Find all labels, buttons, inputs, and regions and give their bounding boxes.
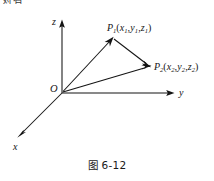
point-p2-label: P2(x2,y2,z2) bbox=[154, 61, 198, 73]
p1-coord-z-sub: 1 bbox=[145, 27, 148, 34]
x-axis bbox=[17, 93, 62, 138]
vector-o-to-p1 bbox=[63, 37, 114, 92]
figure-container: 对有 z bbox=[0, 0, 214, 181]
point-p1-label: P1(x1,y1,z1) bbox=[107, 22, 151, 34]
p2-coord-y-sub: 2 bbox=[182, 66, 185, 73]
p2-index: 2 bbox=[160, 66, 163, 73]
p2-coord-z-sub: 2 bbox=[192, 66, 195, 73]
p1-index: 1 bbox=[113, 27, 116, 34]
p2-close-paren: ) bbox=[195, 61, 198, 72]
y-axis-label: y bbox=[179, 88, 183, 98]
origin-label: O bbox=[50, 84, 58, 94]
p1-close-paren: ) bbox=[148, 22, 151, 33]
p1-coord-x-sub: 1 bbox=[124, 27, 127, 34]
z-axis bbox=[59, 20, 65, 94]
z-axis-label: z bbox=[52, 17, 56, 27]
p1-coord-y-sub: 1 bbox=[135, 27, 138, 34]
vector-p1-to-p2 bbox=[114, 39, 151, 67]
figure-caption: 图 6-12 bbox=[0, 157, 214, 172]
x-axis-label: x bbox=[13, 142, 17, 152]
p2-coord-x-sub: 2 bbox=[171, 66, 174, 73]
y-axis bbox=[62, 90, 175, 96]
